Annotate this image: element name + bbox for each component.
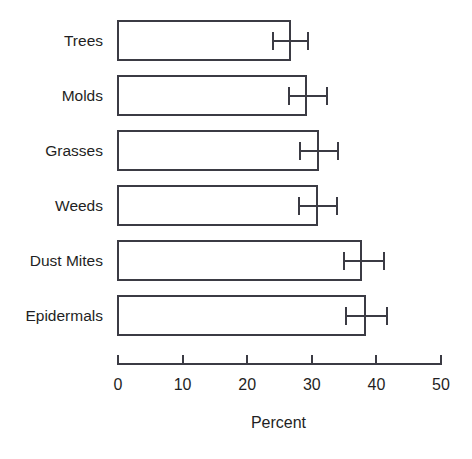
bar-weeds [117,185,318,226]
category-label-dust-mites: Dust Mites [30,253,103,269]
x-axis-tick-0 [117,355,119,363]
error-bar-cap-high [383,252,385,270]
x-axis-tick-10 [182,355,184,363]
category-label-molds: Molds [62,88,103,104]
error-bar-weeds [298,205,338,207]
category-label-epidermals: Epidermals [25,308,103,324]
x-axis-tick-label-30: 30 [286,377,338,393]
error-bar-cap-low [299,142,301,160]
error-bar-epidermals [345,315,388,317]
x-axis-tick-50 [440,355,442,363]
error-bar-grasses [299,150,339,152]
error-bar-cap-low [298,197,300,215]
error-bar-cap-high [386,307,388,325]
error-bar-cap-high [336,197,338,215]
x-axis-tick-label-10: 10 [157,377,209,393]
category-label-trees: Trees [64,33,103,49]
x-axis-tick-label-50: 50 [415,377,467,393]
error-bar-cap-high [307,32,309,50]
error-bar-trees [272,40,309,42]
bar-grasses [117,130,319,171]
error-bar-cap-low [272,32,274,50]
error-bar-cap-low [343,252,345,270]
error-bar-cap-high [337,142,339,160]
plot-area: TreesMoldsGrassesWeedsDust MitesEpiderma… [0,0,472,459]
category-label-weeds: Weeds [55,198,103,214]
bar-trees [117,20,291,61]
bar-molds [117,75,307,116]
bar-epidermals [117,295,366,336]
x-axis-tick-20 [246,355,248,363]
error-bar-cap-low [288,87,290,105]
x-axis-line [117,363,442,365]
x-axis-title: Percent [117,415,440,431]
x-axis-tick-label-20: 20 [221,377,273,393]
error-bar-molds [288,95,328,97]
bar-dust-mites [117,240,362,281]
error-bar-cap-high [326,87,328,105]
x-axis-tick-30 [311,355,313,363]
x-axis-tick-40 [375,355,377,363]
x-axis-tick-label-40: 40 [350,377,402,393]
allergen-percent-bar-chart: TreesMoldsGrassesWeedsDust MitesEpiderma… [0,0,472,459]
error-bar-dust-mites [343,260,385,262]
x-axis-tick-label-0: 0 [92,377,144,393]
category-label-grasses: Grasses [45,143,103,159]
error-bar-cap-low [345,307,347,325]
